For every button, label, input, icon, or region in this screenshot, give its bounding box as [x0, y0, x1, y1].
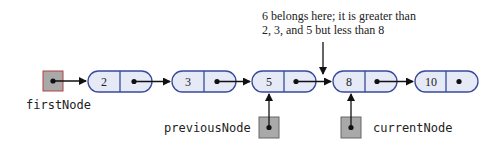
node-2: 2 [88, 71, 170, 92]
node-value: 2 [101, 75, 107, 89]
node-value: 8 [346, 75, 352, 89]
current-node-pointer [341, 94, 361, 138]
annotation-line-2: 2, 3, and 5 but less than 8 [262, 23, 384, 37]
first-node-label: firstNode [26, 98, 91, 112]
annotation-line-1: 6 belongs here; it is greater than [262, 9, 416, 23]
previous-node-label: previousNode [164, 121, 251, 135]
node-value: 3 [185, 75, 191, 89]
node-3: 3 [172, 71, 250, 92]
node-10: 10 [415, 71, 478, 92]
node-value: 10 [425, 75, 437, 89]
node-5: 5 [252, 71, 331, 92]
linked-list-diagram: 6 belongs here; it is greater than 2, 3,… [0, 0, 503, 150]
previous-node-pointer [259, 94, 279, 138]
current-node-label: currentNode [373, 121, 452, 135]
node-8: 8 [333, 71, 413, 92]
node-value: 5 [266, 75, 272, 89]
first-node-pointer [43, 71, 86, 91]
